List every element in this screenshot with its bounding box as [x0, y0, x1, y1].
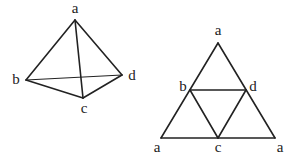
edge-a-d	[75, 20, 122, 75]
vertex-label-d: d	[128, 67, 136, 83]
net-label-b: b	[179, 78, 187, 94]
net-edge-b-c	[190, 90, 218, 138]
net-label-a-left: a	[154, 139, 161, 155]
vertex-label-a: a	[72, 0, 79, 16]
tetrahedron-and-net-diagram: a b c d a b d a c a	[0, 0, 291, 168]
net-label-c: c	[215, 139, 222, 155]
vertex-label-c: c	[81, 100, 88, 116]
tetrahedron: a b c d	[12, 0, 136, 116]
edge-a-c	[75, 20, 83, 98]
tetrahedron-net: a b d a c a	[154, 22, 284, 155]
net-label-a-right: a	[277, 139, 284, 155]
edge-c-d	[83, 75, 122, 98]
vertex-label-b: b	[12, 71, 20, 87]
edge-b-c	[26, 80, 83, 98]
net-label-a-top: a	[215, 22, 222, 38]
net-label-d: d	[249, 78, 257, 94]
edge-b-d	[26, 75, 122, 80]
net-edge-d-c	[218, 90, 246, 138]
edge-a-b	[26, 20, 75, 80]
